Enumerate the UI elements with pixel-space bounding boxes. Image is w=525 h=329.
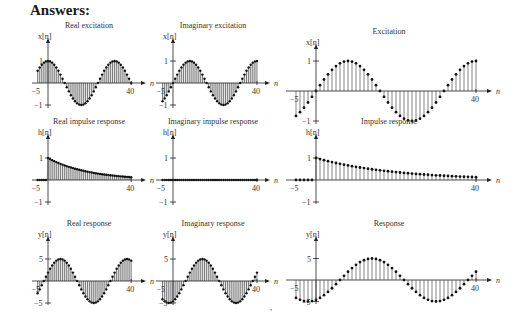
plot-title: Imaginary excitation: [180, 21, 246, 30]
x-tick-label: 40: [252, 285, 260, 294]
y-tick-label: 5: [39, 255, 43, 264]
impulse-response-plot: Impulse responseh[n]n−5401−1: [286, 117, 500, 207]
y-axis-label: y[n]: [38, 230, 52, 239]
stem-plot-grid: Real excitationx[n]n−5401−1Imaginary exc…: [0, 0, 525, 329]
y-axis-label: x[n]: [163, 32, 177, 41]
imaginary-impulse-response-plot: Imaginary impulse responseh[n]n−5401−1: [156, 117, 278, 207]
real-impulse-response-plot: Real impulse responseh[n]n−5401−1: [32, 117, 154, 207]
x-tick-label: −5: [290, 95, 299, 104]
x-axis-label: n: [496, 276, 500, 285]
plot-title: Real impulse response: [53, 117, 125, 126]
plot-title: Impulse response: [361, 117, 417, 126]
response-plot: Responsey[n]n−5405−5: [286, 219, 500, 307]
x-tick-label: −5: [32, 285, 41, 294]
x-axis-label: n: [150, 79, 154, 88]
x-tick-label: 40: [471, 184, 479, 193]
plot-title: Real excitation: [65, 21, 113, 30]
x-axis-label: n: [496, 87, 500, 96]
x-axis-label: n: [274, 79, 278, 88]
x-tick-label: 40: [126, 285, 134, 294]
real-response-plot: Real responsey[n]n−5405−5: [32, 219, 154, 308]
y-axis-label: x[n]: [38, 32, 52, 41]
y-tick-label: 1: [164, 57, 168, 66]
real-excitation-plot: Real excitationx[n]n−5401−1: [32, 21, 154, 110]
y-tick-label: −1: [302, 117, 311, 126]
plot-title: Excitation: [373, 27, 406, 36]
excitation-plot: Excitationx[n]n−5401−1: [286, 27, 500, 126]
y-axis-label: h[n]: [163, 128, 177, 137]
x-axis-label: n: [274, 176, 278, 185]
x-tick-label: −5: [32, 184, 41, 193]
y-tick-label: 1: [307, 154, 311, 163]
x-axis-label: n: [274, 277, 278, 286]
x-tick-label: −5: [290, 184, 299, 193]
x-axis-label: n: [150, 176, 154, 185]
y-tick-label: 1: [39, 154, 43, 163]
x-tick-label: 40: [126, 184, 134, 193]
y-tick-label: 1: [307, 57, 311, 66]
x-tick-label: 40: [252, 87, 260, 96]
y-tick-label: −1: [159, 198, 168, 207]
y-tick-label: 5: [307, 255, 311, 264]
y-tick-label: −5: [34, 299, 43, 308]
plot-title: Real response: [67, 219, 112, 228]
y-tick-label: −1: [159, 101, 168, 110]
y-tick-label: −1: [34, 101, 43, 110]
plot-title: Imaginary response: [182, 219, 245, 228]
x-tick-label: 40: [126, 87, 134, 96]
y-axis-label: h[n]: [306, 128, 320, 137]
x-tick-label: −5: [290, 284, 299, 293]
y-axis-label: y[n]: [163, 230, 177, 239]
y-tick-label: 1: [164, 154, 168, 163]
x-tick-label: 40: [471, 284, 479, 293]
plot-title: Response: [374, 219, 405, 228]
y-axis-label: x[n]: [306, 38, 320, 47]
y-tick-label: −5: [302, 298, 311, 307]
y-axis-label: h[n]: [38, 128, 52, 137]
y-tick-label: 5: [164, 255, 168, 264]
x-tick-label: −5: [157, 87, 166, 96]
y-tick-label: −5: [159, 299, 168, 308]
x-tick-label: 40: [252, 184, 260, 193]
x-tick-label: −5: [157, 285, 166, 294]
plot-title: Imaginary impulse response: [168, 117, 259, 126]
x-tick-label: −5: [32, 87, 41, 96]
x-axis-label: n: [150, 277, 154, 286]
y-tick-label: −1: [302, 198, 311, 207]
y-tick-label: 1: [39, 57, 43, 66]
y-tick-label: −1: [34, 198, 43, 207]
imaginary-excitation-plot: Imaginary excitationx[n]n−5401−1: [156, 21, 278, 110]
x-tick-label: 40: [471, 95, 479, 104]
x-tick-label: −5: [157, 184, 166, 193]
x-axis-label: n: [496, 176, 500, 185]
stray-comma: ,: [270, 302, 272, 312]
y-axis-label: y[n]: [306, 230, 320, 239]
imaginary-response-plot: Imaginary responsey[n]n−5405−5: [156, 219, 278, 308]
